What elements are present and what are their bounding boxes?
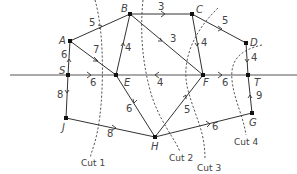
node-label-D: D [250,37,258,48]
edge-weight-H-F: 5 [184,104,190,115]
edge-weight-S-A: 6 [61,49,67,60]
edge-weight-B-C: 3 [158,1,164,12]
node-D [244,41,248,45]
edge-S-J [66,75,68,118]
node-label-E: E [124,77,131,88]
node-label-S: S [59,65,66,76]
node-label-B: B [121,3,128,14]
edge-weight-E-B: 4 [125,42,131,53]
edge-weight-D-T: 4 [251,52,257,63]
edge-weight-J-H: 8 [107,128,113,139]
edge-weight-A-E: 7 [93,44,99,55]
node-T [246,73,250,77]
node-label-C: C [196,4,203,15]
edge-weight-H-G: 6 [212,121,218,132]
edge-G-T [248,75,252,113]
edge-E-H [116,75,155,137]
edge-weight-G-T: 9 [256,90,262,101]
edge-S-A [68,41,70,75]
edge-weight-S-E: 6 [90,77,96,88]
node-E [114,73,118,77]
edge-weight-A-B: 5 [89,17,95,28]
node-S [66,73,70,77]
node-label-A: A [58,35,66,46]
direction-arrows [65,11,252,130]
edge-weight-S-J: 8 [57,89,63,100]
node-H [153,135,157,139]
edge-weight-F-E: 4 [157,77,163,88]
arrow-E-H-icon [133,99,137,103]
cut-label-4: Cut 4 [234,137,258,147]
edge-weight-E-H: 6 [126,103,132,114]
cut-label-3: Cut 3 [197,163,221,173]
node-C [190,12,194,16]
cut-labels: Cut 1Cut 2Cut 3Cut 4 [81,137,258,173]
node-label-T: T [254,77,261,88]
edge-weight-B-F: 3 [170,33,176,44]
edge-weight-C-D: 5 [222,15,228,26]
edge-D-T [246,43,248,75]
cut-3-line [186,8,218,160]
node-J [64,116,68,120]
cut-label-1: Cut 1 [81,158,105,168]
node-G [250,111,254,115]
network-graph: 576684334544665869 ABCDSEFTJHG Cut 1Cut … [0,0,297,174]
node-A [68,39,72,43]
node-B [128,12,132,16]
cuts [90,0,262,160]
node-label-F: F [203,77,209,88]
cut-label-2: Cut 2 [169,153,193,163]
edge-weight-C-F: 4 [201,37,207,48]
network-diagram: 576684334544665869 ABCDSEFTJHG Cut 1Cut … [0,0,297,174]
edge-weight-F-T: 6 [222,77,228,88]
node-label-H: H [151,141,159,152]
node-label-G: G [249,117,257,128]
node-label-J: J [60,122,65,133]
edge-H-G [155,113,252,137]
